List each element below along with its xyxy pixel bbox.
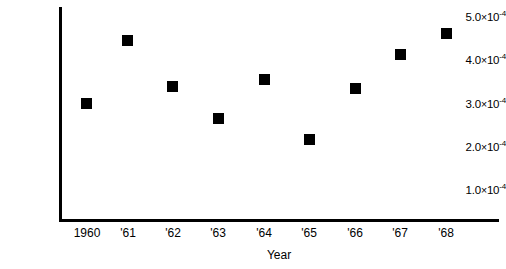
data-point-1961 (122, 35, 133, 46)
data-point-1962 (167, 81, 178, 92)
data-point-1960 (81, 98, 92, 109)
x-axis-title: Year (0, 248, 506, 262)
data-point-1966 (350, 83, 361, 94)
data-point-1965 (304, 134, 315, 145)
scatter-chart: 5.0×10-4 4.0×10-4 3.0×10-4 2.0×10-4 1.0×… (0, 0, 506, 269)
data-point-1967 (395, 49, 406, 60)
plot-area (0, 0, 506, 269)
data-point-1964 (259, 74, 270, 85)
data-point-1968 (441, 28, 452, 39)
data-point-1963 (213, 113, 224, 124)
